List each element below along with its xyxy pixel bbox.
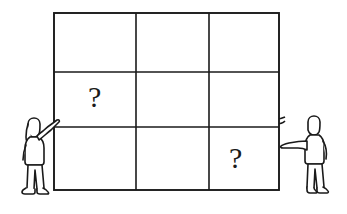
person-right-torso <box>305 135 324 164</box>
person-left-shoe-back <box>22 188 35 194</box>
illustration-canvas: ? ? <box>0 0 347 214</box>
person-left-torso <box>25 137 44 165</box>
person-right-head <box>308 116 320 135</box>
elephant-grid-drawing: ? ? <box>0 0 347 214</box>
question-mark-left: ? <box>88 80 101 113</box>
question-mark-right: ? <box>229 141 242 174</box>
